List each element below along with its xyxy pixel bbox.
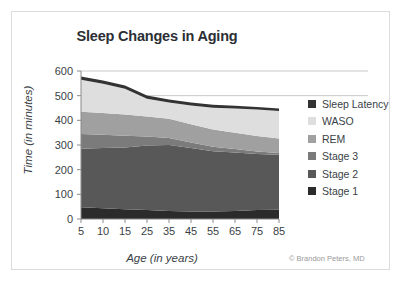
y-tick-label: 200: [55, 164, 73, 176]
x-tick-label: 35: [163, 225, 175, 237]
legend-item-stage-3[interactable]: Stage 3: [308, 148, 389, 166]
legend-swatch-icon: [308, 187, 316, 195]
x-axis-ticks: 5101525354555657585: [78, 219, 285, 237]
chart-card: Sleep Changes in Aging 01002003004005006…: [11, 11, 390, 270]
y-tick-label: 500: [55, 90, 73, 102]
legend-item-waso[interactable]: WASO: [308, 113, 389, 131]
y-tick-label: 300: [55, 139, 73, 151]
legend-item-label: Stage 1: [322, 185, 358, 197]
legend-item-stage-1[interactable]: Stage 1: [308, 183, 389, 201]
legend-swatch-icon: [308, 117, 316, 125]
area-stage-2: [81, 145, 279, 212]
copyright-credit: © Brandon Peters, MD: [289, 254, 365, 263]
x-tick-label: 75: [251, 225, 263, 237]
legend-item-label: WASO: [322, 115, 354, 127]
legend-item-rem[interactable]: REM: [308, 130, 389, 148]
y-tick-label: 400: [55, 114, 73, 126]
x-tick-label: 15: [119, 225, 131, 237]
legend-item-label: Sleep Latency: [322, 98, 389, 110]
y-tick-label: 0: [67, 213, 73, 225]
legend-swatch-icon: [308, 170, 316, 178]
legend-item-stage-2[interactable]: Stage 2: [308, 165, 389, 183]
area-series-group: [81, 76, 279, 219]
legend-swatch-icon: [308, 152, 316, 160]
legend-item-label: Stage 3: [322, 150, 358, 162]
legend-swatch-icon: [308, 100, 316, 108]
x-tick-label: 5: [78, 225, 84, 237]
x-axis-title: Age (in years): [72, 252, 252, 264]
chart-legend: Sleep LatencyWASOREMStage 3Stage 2Stage …: [308, 95, 389, 200]
y-tick-label: 600: [55, 65, 73, 77]
legend-item-sleep-latency[interactable]: Sleep Latency: [308, 95, 389, 113]
y-tick-label: 100: [55, 188, 73, 200]
y-axis-ticks: 0100200300400500600: [55, 65, 81, 225]
x-tick-label: 25: [141, 225, 153, 237]
x-tick-label: 65: [229, 225, 241, 237]
x-tick-label: 85: [273, 225, 285, 237]
x-tick-label: 55: [207, 225, 219, 237]
y-axis-title: Time (in minutes): [22, 70, 34, 190]
legend-swatch-icon: [308, 135, 316, 143]
legend-item-label: Stage 2: [322, 168, 358, 180]
legend-item-label: REM: [322, 133, 345, 145]
x-tick-label: 45: [185, 225, 197, 237]
x-tick-label: 10: [97, 225, 109, 237]
